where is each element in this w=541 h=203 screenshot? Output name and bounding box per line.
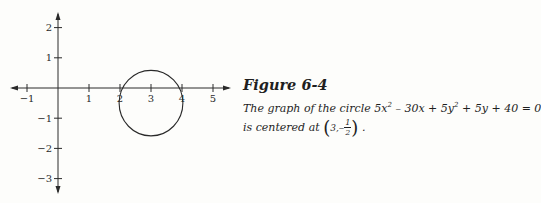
eq-part-1: The graph of the circle 5x (243, 102, 387, 115)
eq-part-3: + 5y + 40 = 0 (459, 102, 541, 115)
figure-caption: Figure 6-4 The graph of the circle 5x2 –… (243, 76, 523, 137)
fraction-denominator: 2 (345, 128, 350, 137)
y-tick-label: −2 (37, 143, 52, 154)
x-tick-label: −1 (20, 93, 35, 104)
y-tick-label: −3 (37, 173, 52, 184)
caption-line-2: is centered at (3,–12) . (243, 118, 523, 137)
y-tick-label: −1 (37, 113, 52, 124)
caption-line-1: The graph of the circle 5x2 – 30x + 5y2 … (243, 96, 523, 118)
arrow-left-icon (10, 86, 18, 91)
x-tick-label: 1 (86, 93, 92, 104)
figure-title: Figure 6-4 (243, 76, 523, 93)
right-paren: ) (351, 116, 358, 137)
x-tick-label: 5 (210, 93, 216, 104)
tick-labels: −11234521−1−2−3 (20, 22, 217, 184)
eq-part-2: – 30x + 5y (392, 102, 454, 115)
caption-prefix: is centered at (243, 120, 320, 133)
arrow-down-icon (56, 186, 61, 194)
y-tick-label: 1 (46, 52, 52, 63)
center-x: 3, (330, 122, 339, 132)
x-tick-label: 3 (148, 93, 154, 104)
circle-graph: −11234521−1−2−3 (0, 0, 240, 203)
caption-suffix: . (362, 120, 366, 133)
y-tick-label: 2 (46, 22, 52, 33)
arrow-right-icon (223, 86, 231, 91)
arrow-up-icon (56, 12, 61, 20)
